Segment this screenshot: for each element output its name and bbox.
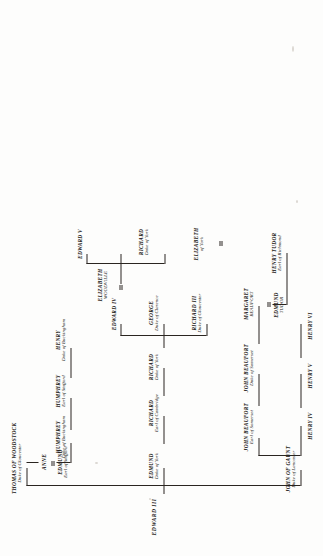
family-tree-diagram: EDWARD III THOMAS OF WOODSTOCK Duke of G… bbox=[0, 0, 323, 556]
node-richard-duke-of-york: RICHARD Duke of York bbox=[147, 341, 158, 393]
node-title: of York bbox=[198, 216, 203, 272]
connector-edmund-to-cambridge bbox=[163, 416, 164, 444]
node-title: Earl of Stafford bbox=[60, 363, 65, 419]
node-title: Duke of Lancaster bbox=[290, 434, 295, 504]
node-henry-vi: HENRY VI bbox=[306, 306, 312, 346]
node-john-of-gaunt: JOHN OF GAUNT Duke of Lancaster bbox=[284, 434, 295, 504]
node-name: HUMPHREY bbox=[54, 363, 60, 419]
node-henry-v: HENRY V bbox=[306, 356, 312, 396]
marriage-bar-margaret-edmund-tudor bbox=[266, 302, 270, 307]
node-name: GEORGE bbox=[147, 284, 153, 342]
node-name: EDWARD V bbox=[76, 224, 82, 264]
connector-to-henry-iv bbox=[300, 426, 301, 456]
node-name: RICHARD bbox=[147, 341, 153, 393]
node-name: MARGARET bbox=[242, 278, 248, 330]
connector-to-edmund-york bbox=[163, 468, 164, 486]
node-name: HENRY bbox=[54, 310, 60, 370]
connector-to-edward-iv bbox=[120, 324, 121, 336]
node-edward-iv: EDWARD IV bbox=[110, 294, 116, 334]
node-title: WOODVILLE bbox=[102, 257, 107, 313]
node-name: ELIZABETH bbox=[192, 216, 198, 272]
node-elizabeth-of-york: ELIZABETH of York bbox=[192, 216, 203, 272]
node-name: ANNE bbox=[40, 442, 46, 482]
node-humphrey-earl-of-stafford: HUMPHREY Earl of Stafford bbox=[54, 363, 65, 419]
node-name: EDWARD IV bbox=[110, 294, 116, 334]
node-edmund-duke-of-york: EDMUND Duke of York bbox=[147, 440, 158, 492]
node-henry-iv: HENRY IV bbox=[306, 406, 312, 446]
connector-to-richard-duke-of-york-ii bbox=[120, 254, 121, 264]
node-henry-tudor: HENRY TUDOR Earl of Richmond bbox=[270, 218, 281, 288]
connector-to-thomas bbox=[26, 468, 27, 486]
marriage-bar-edward-iv-elizabeth bbox=[118, 285, 122, 290]
node-name: ELIZABETH bbox=[96, 257, 102, 313]
connector-cambridge-to-york bbox=[163, 368, 164, 396]
connector-york-to-children bbox=[163, 336, 164, 348]
node-name: RICHARD bbox=[137, 216, 143, 268]
node-name: HENRY TUDOR bbox=[270, 218, 276, 288]
marriage-bar-henry-tudor-elizabeth bbox=[218, 241, 222, 246]
node-title: Duke of York bbox=[153, 341, 158, 393]
node-title: Duke of Gloucester bbox=[16, 432, 21, 494]
node-elizabeth-woodville: ELIZABETH WOODVILLE bbox=[96, 257, 107, 313]
connector-to-john-of-gaunt bbox=[300, 470, 301, 486]
node-name: THOMAS OF WOODSTOCK bbox=[10, 432, 16, 494]
connector-stafford-to-henry-buckingham bbox=[70, 348, 71, 378]
connector-to-john-beaufort-somerset bbox=[258, 438, 259, 456]
scanned-page: EDWARD III THOMAS OF WOODSTOCK Duke of G… bbox=[0, 0, 323, 556]
node-george-duke-of-clarence: GEORGE Duke of Clarence bbox=[147, 284, 158, 342]
connector-root-stub bbox=[163, 486, 164, 494]
node-richard-duke-of-york-ii: RICHARD Duke of York bbox=[137, 216, 148, 268]
node-name: JOHN BEAUFORT bbox=[242, 394, 248, 460]
node-title: Earl of Somerset bbox=[248, 394, 253, 460]
connector-to-richard-iii bbox=[206, 324, 207, 336]
node-title: Duke of York bbox=[153, 440, 158, 492]
node-henry-duke-of-buckingham: HENRY Duke of Buckingham bbox=[54, 310, 65, 370]
connector-edward-iv-issue bbox=[120, 264, 121, 284]
connector-tudor-issue bbox=[272, 304, 286, 305]
node-name: HENRY IV bbox=[306, 406, 312, 446]
node-name: JOHN BEAUFORT bbox=[242, 335, 248, 401]
node-john-beaufort-duke-of-somerset: JOHN BEAUFORT Duke of Somerset bbox=[242, 335, 253, 401]
node-title: Duke of Buckingham bbox=[60, 310, 65, 370]
node-name: HENRY V bbox=[306, 356, 312, 396]
node-name: HENRY VI bbox=[306, 306, 312, 346]
connector-thomas-to-anne bbox=[26, 462, 38, 463]
node-john-beaufort-earl-of-somerset: JOHN BEAUFORT Earl of Somerset bbox=[242, 394, 253, 460]
node-name: EDMUND bbox=[147, 440, 153, 492]
connector-to-humphrey-buckingham bbox=[70, 443, 71, 463]
node-thomas-of-woodstock: THOMAS OF WOODSTOCK Duke of Gloucester bbox=[10, 432, 21, 494]
node-title: BEAUFORT bbox=[248, 278, 253, 330]
node-title: Duke of York bbox=[143, 216, 148, 268]
connector-gaunt-spine bbox=[258, 455, 300, 456]
connector-to-edward-v bbox=[86, 254, 87, 264]
connector-to-elizabeth-of-york bbox=[164, 254, 165, 264]
node-title: Duke of Clarence bbox=[153, 284, 158, 342]
node-edward-v: EDWARD V bbox=[76, 224, 82, 264]
connector-buckingham-to-stafford bbox=[70, 398, 71, 430]
connector-to-george-clarence bbox=[163, 324, 164, 336]
connector-somerset-earl-to-duke bbox=[258, 374, 259, 406]
connector-to-henry-tudor bbox=[286, 253, 287, 305]
node-anne: ANNE bbox=[40, 442, 46, 482]
node-name: RICHARD III bbox=[190, 280, 196, 346]
connector-somerset-to-margaret bbox=[258, 306, 259, 344]
node-title: Duke of Gloucester bbox=[196, 280, 201, 346]
node-name: JOHN OF GAUNT bbox=[284, 434, 290, 504]
connector-edward-iv-children-spine bbox=[86, 263, 164, 264]
node-margaret-beaufort: MARGARET BEAUFORT bbox=[242, 278, 253, 330]
node-title: Earl of Richmond bbox=[276, 218, 281, 288]
node-richard-iii: RICHARD III Duke of Gloucester bbox=[190, 280, 201, 346]
connector-henry-v-to-henry-vi bbox=[300, 324, 301, 358]
connector-henry-iv-to-henry-v bbox=[300, 374, 301, 408]
node-title: Duke of Somerset bbox=[248, 335, 253, 401]
node-edward-iii: EDWARD III bbox=[150, 494, 156, 540]
